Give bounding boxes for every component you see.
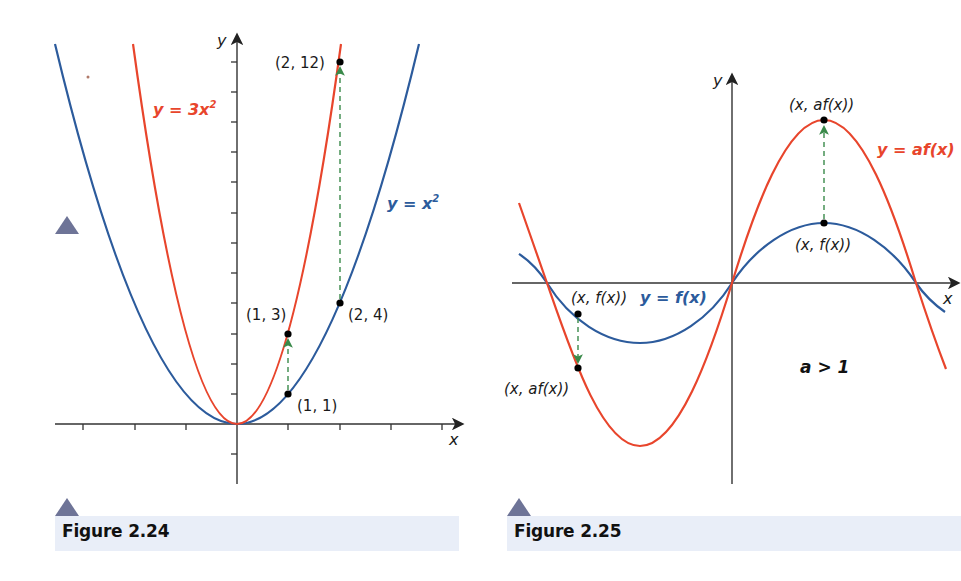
x-axis-label: x bbox=[448, 430, 459, 449]
point-top-af bbox=[820, 116, 827, 123]
point-top-f bbox=[820, 219, 827, 226]
point-1-3 bbox=[284, 330, 291, 337]
figure-caption: Figure 2.24 bbox=[62, 521, 169, 541]
label-point-1-3: (1, 3) bbox=[246, 306, 286, 324]
figure-caption: Figure 2.25 bbox=[514, 521, 621, 541]
label-bottom-f: (x, f(x)) bbox=[571, 289, 627, 307]
y-axis-label: y bbox=[216, 31, 227, 50]
x-axis-label: x bbox=[942, 289, 953, 308]
equation-y-equals-a-f-x: y = af(x) bbox=[877, 140, 955, 159]
caption-triangle-icon bbox=[55, 216, 79, 234]
label-top-f: (x, f(x)) bbox=[795, 236, 851, 254]
label-top-af: (x, af(x)) bbox=[789, 96, 854, 114]
x-axis bbox=[55, 424, 462, 430]
point-2-4 bbox=[336, 299, 343, 306]
stray-dot bbox=[87, 76, 90, 79]
label-point-1-1: (1, 1) bbox=[297, 397, 337, 415]
figure-2-25: y x (x, af(x)) (x, f(x)) (x, f(x)) (x, a… bbox=[480, 0, 961, 581]
point-bottom-f bbox=[574, 310, 581, 317]
point-2-12 bbox=[336, 58, 343, 65]
caption-triangle-icon bbox=[507, 498, 531, 516]
figure-2-25-plot: y x (x, af(x)) (x, f(x)) (x, f(x)) (x, a… bbox=[480, 0, 961, 581]
equation-y-equals-f-x: y = f(x) bbox=[640, 288, 707, 307]
condition-a-greater-than-1: a > 1 bbox=[800, 357, 849, 377]
equation-y-equals-3x-squared: y = 3x2 bbox=[153, 99, 216, 119]
y-axis-label: y bbox=[712, 71, 723, 90]
equation-y-equals-x-squared: y = x2 bbox=[387, 193, 439, 213]
label-bottom-af: (x, af(x)) bbox=[504, 380, 569, 398]
figure-2-24: (1, 1) (1, 3) (2, 4) (2, 12) y x y = 3x2… bbox=[0, 0, 480, 581]
y-axis bbox=[231, 35, 237, 484]
caption-triangle-icon bbox=[55, 498, 79, 516]
label-point-2-4: (2, 4) bbox=[348, 306, 388, 324]
point-1-1 bbox=[284, 390, 291, 397]
point-bottom-af bbox=[574, 364, 581, 371]
figure-2-24-plot: (1, 1) (1, 3) (2, 4) (2, 12) y x y = 3x2… bbox=[0, 0, 480, 581]
label-point-2-12: (2, 12) bbox=[275, 54, 325, 72]
